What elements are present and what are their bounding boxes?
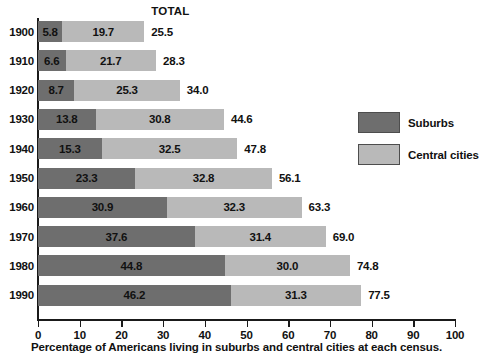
bar-segment-central-cities: 21.7 <box>66 50 156 71</box>
bar-value-central-cities: 31.3 <box>285 289 307 301</box>
bar-row: 199046.231.377.5 <box>38 285 455 306</box>
x-tick-label-100: 100 <box>446 329 465 341</box>
bar-value-central-cities: 31.4 <box>249 231 271 243</box>
plot-area: 19005.819.725.519106.621.728.319208.725.… <box>38 18 455 320</box>
x-tick-label-10: 10 <box>73 329 85 341</box>
bar-value-central-cities: 32.8 <box>193 172 215 184</box>
bar-segment-suburbs: 46.2 <box>38 285 231 306</box>
legend-label-central-cities: Central cities <box>408 149 479 161</box>
x-tick-70 <box>330 320 331 327</box>
x-tick-label-50: 50 <box>240 329 252 341</box>
x-tick-20 <box>121 320 122 327</box>
bar-value-central-cities: 25.3 <box>116 84 138 96</box>
bar-segment-central-cities: 19.7 <box>62 21 144 42</box>
x-tick-label-40: 40 <box>199 329 211 341</box>
bar-segment-central-cities: 30.8 <box>96 109 224 130</box>
bar-segment-suburbs: 15.3 <box>38 138 102 159</box>
bar-value-suburbs: 13.8 <box>56 113 78 125</box>
y-axis-label-1960: 1960 <box>9 201 34 213</box>
bar-value-suburbs: 6.6 <box>44 55 59 67</box>
total-column-header: TOTAL <box>151 5 189 17</box>
bar-value-suburbs: 37.6 <box>106 231 128 243</box>
x-tick-30 <box>163 320 164 327</box>
x-tick-label-90: 90 <box>407 329 419 341</box>
bar-total-label: 44.6 <box>231 113 253 125</box>
x-tick-label-0: 0 <box>35 329 41 341</box>
bar-total-label: 56.1 <box>279 172 301 184</box>
bar-value-suburbs: 44.8 <box>121 260 143 272</box>
bar-value-central-cities: 30.0 <box>277 260 299 272</box>
bar-total-label: 69.0 <box>333 231 355 243</box>
bar-total-label: 77.5 <box>368 289 390 301</box>
x-tick-label-60: 60 <box>282 329 294 341</box>
legend-swatch-suburbs <box>358 112 400 133</box>
bar-segment-suburbs: 23.3 <box>38 168 135 189</box>
bar-total-label: 47.8 <box>244 143 266 155</box>
bar-row: 19005.819.725.5 <box>38 21 455 42</box>
bar-row: 196030.932.363.3 <box>38 197 455 218</box>
chart-caption: Percentage of Americans living in suburb… <box>0 341 473 353</box>
bar-value-suburbs: 15.3 <box>59 143 81 155</box>
y-axis-label-1900: 1900 <box>9 26 34 38</box>
x-tick-50 <box>247 320 248 327</box>
x-tick-100 <box>455 320 456 327</box>
bar-row: 19208.725.334.0 <box>38 80 455 101</box>
x-tick-40 <box>205 320 206 327</box>
legend-label-suburbs: Suburbs <box>408 117 454 129</box>
x-tick-label-80: 80 <box>365 329 377 341</box>
bar-segment-suburbs: 6.6 <box>38 50 66 71</box>
bar-value-central-cities: 19.7 <box>92 26 114 38</box>
bar-value-suburbs: 8.7 <box>48 84 63 96</box>
legend-swatch-central-cities <box>358 144 400 165</box>
bar-segment-suburbs: 13.8 <box>38 109 96 130</box>
y-axis-label-1980: 1980 <box>9 260 34 272</box>
bar-segment-suburbs: 44.8 <box>38 255 225 276</box>
bar-segment-central-cities: 31.3 <box>231 285 362 306</box>
x-tick-60 <box>288 320 289 327</box>
bar-value-suburbs: 30.9 <box>92 201 114 213</box>
x-tick-90 <box>413 320 414 327</box>
y-axis-label-1910: 1910 <box>9 55 34 67</box>
y-axis-label-1940: 1940 <box>9 143 34 155</box>
bar-segment-central-cities: 30.0 <box>225 255 350 276</box>
bar-value-central-cities: 21.7 <box>100 55 122 67</box>
x-tick-80 <box>372 320 373 327</box>
y-axis-label-1950: 1950 <box>9 172 34 184</box>
x-tick-label-20: 20 <box>115 329 127 341</box>
y-axis-label-1930: 1930 <box>9 113 34 125</box>
bar-segment-central-cities: 32.8 <box>135 168 272 189</box>
bar-segment-suburbs: 37.6 <box>38 226 195 247</box>
bar-segment-central-cities: 31.4 <box>195 226 326 247</box>
bar-segment-suburbs: 5.8 <box>38 21 62 42</box>
bar-segment-central-cities: 32.3 <box>167 197 302 218</box>
bar-total-label: 34.0 <box>187 84 209 96</box>
bar-row: 197037.631.469.0 <box>38 226 455 247</box>
bar-segment-central-cities: 25.3 <box>74 80 180 101</box>
y-axis-label-1990: 1990 <box>9 289 34 301</box>
bar-segment-suburbs: 8.7 <box>38 80 74 101</box>
bar-value-central-cities: 30.8 <box>149 113 171 125</box>
y-axis-label-1920: 1920 <box>9 84 34 96</box>
x-tick-label-70: 70 <box>324 329 336 341</box>
bar-segment-central-cities: 32.5 <box>102 138 238 159</box>
bar-value-suburbs: 23.3 <box>76 172 98 184</box>
bar-value-central-cities: 32.3 <box>223 201 245 213</box>
y-axis-label-1970: 1970 <box>9 231 34 243</box>
bar-value-suburbs: 5.8 <box>42 26 57 38</box>
bar-value-central-cities: 32.5 <box>159 143 181 155</box>
x-tick-0 <box>38 320 39 327</box>
x-tick-10 <box>80 320 81 327</box>
x-tick-label-30: 30 <box>157 329 169 341</box>
bar-total-label: 28.3 <box>163 55 185 67</box>
bar-value-suburbs: 46.2 <box>124 289 146 301</box>
bar-row: 19106.621.728.3 <box>38 50 455 71</box>
bar-row: 195023.332.856.1 <box>38 168 455 189</box>
bar-row: 198044.830.074.8 <box>38 255 455 276</box>
bar-total-label: 74.8 <box>357 260 379 272</box>
bar-segment-suburbs: 30.9 <box>38 197 167 218</box>
bar-total-label: 25.5 <box>151 26 173 38</box>
bar-total-label: 63.3 <box>309 201 331 213</box>
